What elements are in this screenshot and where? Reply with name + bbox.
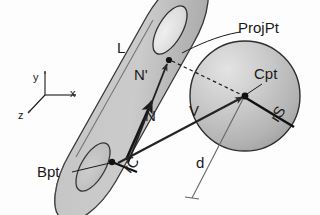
normal-prime-label: N' — [134, 67, 148, 82]
projected-point-label: ProjPt — [238, 20, 279, 35]
v-vector-label: V — [189, 103, 199, 118]
axis-z-line — [28, 95, 45, 113]
geometry-diagram: y x z L N' N V d Bpt rC rS Cpt ProjPt — [0, 0, 320, 215]
axis-z-label: z — [18, 110, 24, 121]
axis-x-label: x — [70, 88, 76, 99]
normal-label: N — [145, 108, 156, 123]
base-point-label: Bpt — [37, 164, 60, 179]
cylinder-axis-label: L — [117, 40, 125, 55]
projected-point-dot — [166, 57, 172, 63]
distance-label: d — [196, 155, 204, 170]
cylinder — [55, 0, 208, 215]
axis-y-label: y — [33, 72, 39, 83]
center-point-label: Cpt — [254, 66, 277, 81]
